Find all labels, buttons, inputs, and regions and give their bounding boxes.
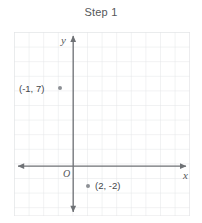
point-label: (2, -2) (95, 180, 120, 191)
y-axis-label: y (61, 35, 66, 46)
x-axis-label: x (183, 170, 188, 181)
point-label: (-1, 7) (19, 83, 44, 94)
coordinate-plane-figure: Step 1 y x O ( (0, 0, 202, 223)
origin-label: O (63, 168, 70, 179)
point-marker (58, 86, 62, 90)
point-marker (86, 184, 90, 188)
